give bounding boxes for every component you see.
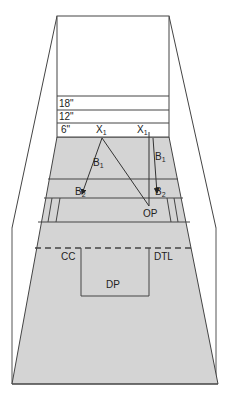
wall-label-6: 6" [61, 124, 71, 135]
label-op: OP [143, 208, 158, 219]
front-wall [57, 16, 169, 137]
wall-label-12: 12" [59, 111, 74, 122]
court-diagram: 18" 12" 6" X1 X1 B1 B1 B2 B2 OP CC DTL D… [0, 0, 229, 398]
label-dp: DP [106, 279, 120, 290]
court-floor [12, 137, 218, 384]
label-dtl: DTL [154, 251, 173, 262]
wall-label-18: 18" [59, 98, 74, 109]
label-cc: CC [61, 251, 75, 262]
